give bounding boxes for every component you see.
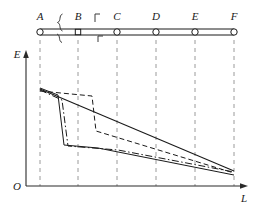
chart-area: E L O [13, 40, 248, 204]
node-label-f: F [230, 10, 238, 22]
node-label-e: E [191, 10, 199, 22]
series-solid-linear-decay [40, 89, 234, 171]
x-axis: L O [13, 180, 248, 204]
chain-node-a[interactable]: A [36, 10, 44, 35]
node-marker-c[interactable] [114, 29, 120, 35]
x-axis-arrow [240, 183, 248, 189]
bracket-marker-a-right [65, 14, 70, 20]
brace-marker-bc [95, 14, 103, 42]
node-marker-d[interactable] [153, 29, 159, 35]
chain-node-b[interactable]: B [75, 10, 82, 35]
chain-node-f[interactable]: F [230, 10, 238, 35]
node-label-a: A [36, 10, 44, 22]
y-axis: E [13, 48, 29, 186]
figure-root: A B C D E F [0, 0, 264, 208]
node-marker-e[interactable] [192, 29, 198, 35]
node-marker-b[interactable] [75, 29, 80, 34]
chart-series-group [40, 88, 234, 175]
node-label-c: C [113, 10, 121, 22]
node-chain: A B C D E F [36, 10, 238, 43]
y-axis-arrow [23, 50, 29, 58]
x-axis-label: L [240, 192, 247, 204]
series-dashed-step-decay [40, 91, 234, 173]
y-axis-label: E [13, 48, 21, 60]
chain-node-e[interactable]: E [191, 10, 199, 35]
series-dashdot-decay [40, 90, 234, 172]
origin-label: O [13, 180, 21, 192]
node-marker-f[interactable] [231, 29, 237, 35]
chain-node-d[interactable]: D [151, 10, 160, 35]
node-marker-a[interactable] [37, 29, 43, 35]
node-label-b: B [75, 10, 82, 22]
chain-node-c[interactable]: C [113, 10, 121, 35]
node-label-d: D [151, 10, 160, 22]
